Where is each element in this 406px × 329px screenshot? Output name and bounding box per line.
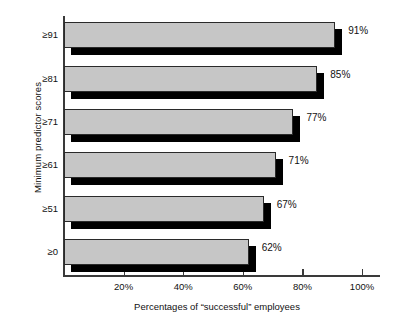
bar-group bbox=[64, 196, 271, 229]
bar-group bbox=[64, 22, 342, 55]
x-axis-tick-label: 60% bbox=[223, 281, 263, 292]
bar bbox=[64, 239, 249, 265]
bar bbox=[64, 196, 264, 222]
bar bbox=[64, 66, 317, 92]
x-axis-tick-label: 100% bbox=[342, 281, 382, 292]
x-axis-tick-mark bbox=[362, 269, 363, 276]
y-axis-tick-label: ≥71 bbox=[12, 116, 58, 127]
y-axis-tick-label: ≥51 bbox=[12, 203, 58, 214]
x-axis-title: Percentages of “successful” employees bbox=[0, 301, 406, 312]
bar-value-label: 62% bbox=[262, 242, 282, 253]
y-axis-tick-labels: ≥91≥81≥71≥61≥51≥0 bbox=[8, 16, 58, 276]
bar-group bbox=[64, 152, 283, 185]
bar-value-label: 77% bbox=[306, 112, 326, 123]
x-axis-tick-label: 20% bbox=[104, 281, 144, 292]
bar bbox=[64, 22, 335, 48]
bar-value-label: 91% bbox=[348, 25, 368, 36]
bar bbox=[64, 152, 276, 178]
bar-value-label: 85% bbox=[330, 69, 350, 80]
bar-value-label: 67% bbox=[277, 199, 297, 210]
bar-group bbox=[64, 109, 300, 142]
bar-group bbox=[64, 239, 256, 272]
bar-group bbox=[64, 66, 324, 99]
bar-chart: Minimum predictor scores ≥91≥81≥71≥61≥51… bbox=[0, 0, 406, 329]
y-axis-tick-label: ≥91 bbox=[12, 29, 58, 40]
bar bbox=[64, 109, 293, 135]
x-axis-tick-mark bbox=[302, 269, 303, 276]
x-axis-tick-label: 40% bbox=[163, 281, 203, 292]
y-axis-tick-label: ≥61 bbox=[12, 159, 58, 170]
bar-value-label: 71% bbox=[289, 155, 309, 166]
y-axis-tick-label: ≥0 bbox=[12, 246, 58, 257]
y-axis-tick-label: ≥81 bbox=[12, 73, 58, 84]
x-axis-tick-label: 80% bbox=[282, 281, 322, 292]
